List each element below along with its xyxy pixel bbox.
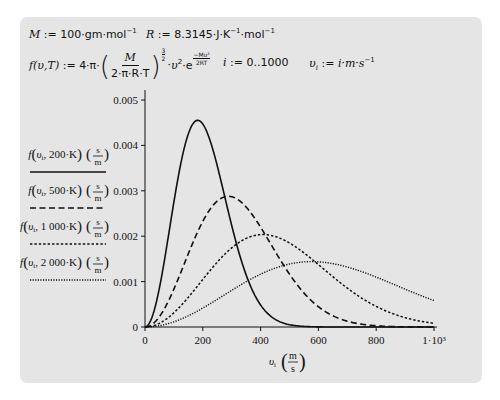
legend-unit-den: m <box>94 193 101 203</box>
legend-unit-paren-right: ) <box>104 218 109 235</box>
y-tick-label: 0 <box>133 321 139 333</box>
legend-label: f(υi, 500·K) <box>28 182 82 199</box>
x-tick-label: 1·10³ <box>422 334 446 346</box>
y-tick-label: 0.003 <box>113 185 138 197</box>
legend-item-1000K[interactable]: f(υi, 1 000·K)(sm) <box>20 217 109 244</box>
legend-label: f(υi, 1 000·K) <box>20 218 82 235</box>
legend-item-200K[interactable]: f(υi, 200·K)(sm) <box>28 145 109 172</box>
legend-unit-paren-left: ( <box>86 182 91 199</box>
x-axis-var: υi <box>269 355 276 369</box>
legend-unit-num: s <box>96 181 100 191</box>
legend-unit-num: s <box>96 145 100 155</box>
legend-unit-den: m <box>94 229 101 239</box>
legend-unit-den: m <box>94 265 101 275</box>
legend-item-2000K[interactable]: f(υi, 2 000·K)(sm) <box>20 253 109 280</box>
legend-unit-paren-left: ( <box>86 218 91 235</box>
x-tick-label: 400 <box>252 334 269 346</box>
x-axis-unit-den: s <box>291 363 295 374</box>
legend-unit-paren-left: ( <box>86 146 91 163</box>
curve-1000K <box>145 235 434 327</box>
legend-label: f(υi, 2 000·K) <box>20 254 82 271</box>
curve-200K <box>145 120 434 327</box>
legend-label: f(υi, 200·K) <box>28 146 82 163</box>
y-tick-label: 0.004 <box>113 139 138 151</box>
legend-unit-num: s <box>96 253 100 263</box>
legend-unit-num: s <box>96 217 100 227</box>
y-tick-label: 0.002 <box>113 230 138 242</box>
x-tick-label: 0 <box>142 334 148 346</box>
plot-curves <box>145 120 434 327</box>
x-tick-label: 800 <box>368 334 385 346</box>
x-axis-label: υi(ms) <box>269 350 306 374</box>
x-tick-label: 600 <box>310 334 327 346</box>
curve-500K <box>145 196 434 327</box>
x-axis-unit-num: m <box>289 350 297 361</box>
x-axis-paren-left: ( <box>281 350 288 373</box>
x-tick-label: 200 <box>195 334 212 346</box>
legend-unit-paren-right: ) <box>104 146 109 163</box>
legend-item-500K[interactable]: f(υi, 500·K)(sm) <box>28 181 109 208</box>
y-tick-label: 0.001 <box>113 276 138 288</box>
maxwell-distribution-plot[interactable]: 00.0010.0020.0030.0040.00502004006008001… <box>0 0 500 400</box>
legend-unit-paren-left: ( <box>86 254 91 271</box>
y-tick-label: 0.005 <box>113 94 138 106</box>
legend-unit-den: m <box>94 157 101 167</box>
legend-unit-paren-right: ) <box>104 182 109 199</box>
curve-2000K <box>145 262 434 327</box>
x-axis-paren-right: ) <box>299 350 306 373</box>
plot-axes: 00.0010.0020.0030.0040.00502004006008001… <box>113 90 446 346</box>
legend-unit-paren-right: ) <box>104 254 109 271</box>
plot-legend[interactable]: f(υi, 200·K)(sm)f(υi, 500·K)(sm)f(υi, 1 … <box>20 145 109 280</box>
